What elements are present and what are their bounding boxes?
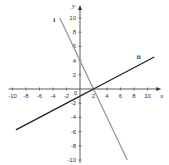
x-tick-label: 10 bbox=[144, 93, 151, 99]
x-axis-label: x bbox=[159, 92, 164, 100]
y-axis-arrow-icon bbox=[78, 5, 82, 10]
x-axis-arrow-icon bbox=[156, 87, 161, 91]
x-tick-label: 6 bbox=[119, 93, 123, 99]
y-tick-label: 2 bbox=[73, 72, 77, 78]
y-tick-label: -4 bbox=[71, 114, 77, 120]
x-tick-label: -4 bbox=[50, 93, 56, 99]
x-tick-label: 4 bbox=[105, 93, 109, 99]
x-tick-label: 8 bbox=[132, 93, 136, 99]
x-tick-label: -2 bbox=[64, 93, 70, 99]
line-label-i: i bbox=[53, 16, 55, 24]
y-axis-label: y bbox=[71, 2, 76, 10]
origin-label: 0 bbox=[74, 90, 78, 96]
y-tick-label: -8 bbox=[71, 143, 77, 149]
y-tick-label: 8 bbox=[73, 29, 77, 35]
y-tick-label: 4 bbox=[73, 58, 77, 64]
x-tick-label: -10 bbox=[8, 93, 17, 99]
line-label-ii: ii bbox=[137, 53, 141, 61]
x-tick-label: -8 bbox=[23, 93, 29, 99]
line-chart: -10-8-6-4-2246810-10-8-6-4-22468100 xyii… bbox=[0, 0, 169, 165]
y-tick-label: -10 bbox=[67, 157, 76, 163]
x-tick-label: -6 bbox=[37, 93, 43, 99]
axes bbox=[9, 5, 162, 163]
y-tick-label: 10 bbox=[69, 15, 76, 21]
y-tick-label: -6 bbox=[71, 129, 77, 135]
